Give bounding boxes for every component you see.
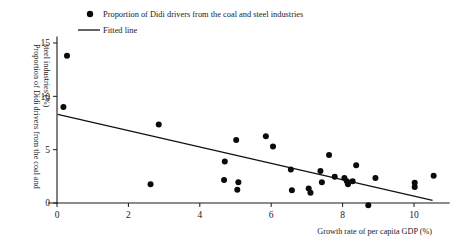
- data-point: [289, 187, 295, 193]
- x-tick-label-0: 0: [55, 210, 60, 220]
- legend: Proportion of Didi drivers from the coal…: [78, 10, 303, 35]
- data-point: [319, 179, 325, 185]
- y-tick-label-0: 0: [45, 198, 50, 208]
- x-tick-label-10: 10: [409, 210, 419, 220]
- data-points-group: [60, 53, 436, 208]
- y-axis-title-line-1: steel industries (%): [42, 44, 51, 107]
- data-point: [270, 143, 276, 149]
- data-point: [365, 202, 371, 208]
- data-point: [332, 174, 338, 180]
- fitted-line: [58, 114, 433, 200]
- data-point: [350, 178, 356, 184]
- data-point: [235, 179, 241, 185]
- data-point: [412, 184, 418, 190]
- data-point: [263, 133, 269, 139]
- data-point: [222, 158, 228, 164]
- y-tick-label-5: 5: [45, 145, 50, 155]
- chart-root: 0246810051015Growth rate of per capita G…: [0, 0, 450, 245]
- axes-group: [48, 37, 450, 207]
- legend-label-scatter: Proportion of Didi drivers from the coal…: [103, 10, 303, 19]
- data-point: [60, 104, 66, 110]
- x-tick-label-2: 2: [126, 210, 131, 220]
- y-axis-title-line-0: Proportion of Didi drivers from the coal…: [32, 44, 41, 189]
- data-point: [148, 181, 154, 187]
- data-point: [233, 137, 239, 143]
- data-point: [353, 162, 359, 168]
- data-point: [431, 173, 437, 179]
- x-axis-title: Growth rate of per capita GDP (%): [317, 227, 432, 236]
- data-point: [372, 175, 378, 181]
- legend-label-fitted-line: Fitted line: [103, 26, 137, 35]
- x-tick-label-4: 4: [197, 210, 202, 220]
- x-tick-label-6: 6: [269, 210, 274, 220]
- data-point: [307, 190, 313, 196]
- data-point: [64, 53, 70, 59]
- data-point: [156, 122, 162, 128]
- x-tick-label-8: 8: [340, 210, 345, 220]
- fitted-line-path: [58, 114, 433, 200]
- legend-marker-scatter: [87, 11, 93, 17]
- data-point: [326, 152, 332, 158]
- data-point: [234, 187, 240, 193]
- data-point: [288, 166, 294, 172]
- axis-labels-group: 0246810051015Growth rate of per capita G…: [32, 38, 432, 236]
- data-point: [221, 177, 227, 183]
- data-point: [317, 168, 323, 174]
- scatter-plot: 0246810051015Growth rate of per capita G…: [0, 0, 450, 245]
